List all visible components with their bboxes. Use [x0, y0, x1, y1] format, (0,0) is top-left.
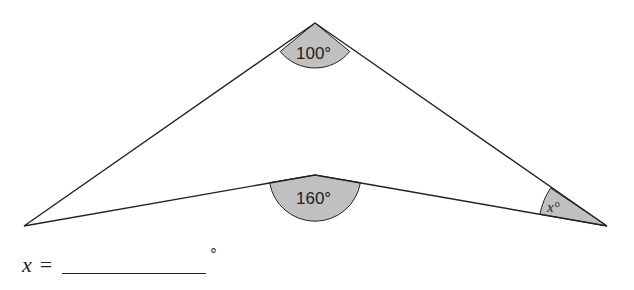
angle-label-top: 100°: [296, 44, 331, 63]
answer-line: x = °: [22, 252, 217, 278]
answer-blank[interactable]: [62, 253, 206, 274]
equals-sign: =: [40, 252, 52, 278]
arrowhead-diagram: 100° 160° x°: [0, 0, 634, 290]
angle-label-inner: 160°: [296, 189, 331, 208]
angle-label-right: x°: [546, 199, 560, 215]
answer-variable: x: [22, 252, 32, 278]
degree-symbol: °: [210, 246, 216, 264]
